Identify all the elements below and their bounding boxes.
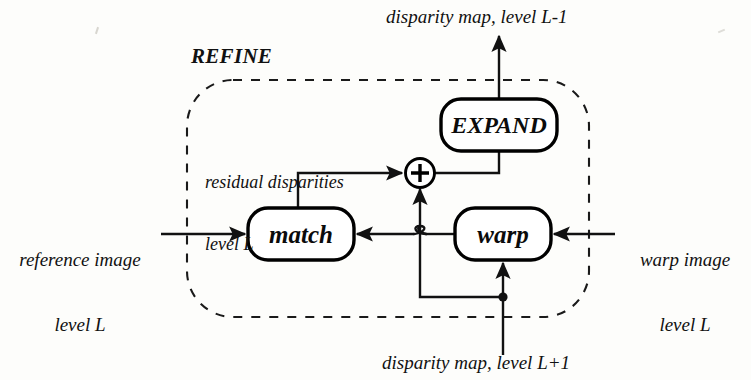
diagram-canvas: EXPAND match warp REFINE disparity map, … — [0, 0, 751, 380]
residual-disparities-annotation: residual disparities level L — [205, 131, 405, 297]
residual-annotation-line2: level L — [205, 234, 405, 255]
right-input-label-line2: level L — [623, 314, 747, 336]
left-input-label: reference image level L — [4, 205, 156, 380]
warp-node-label[interactable]: warp — [455, 222, 551, 247]
right-input-label-line1: warp image — [623, 249, 747, 271]
bottom-input-label: disparity map, level L+1 — [382, 352, 570, 374]
refine-group-label: REFINE — [191, 44, 272, 68]
expand-node-label[interactable]: EXPAND — [441, 113, 557, 137]
wire-sum-to-expand — [435, 151, 499, 173]
left-input-label-line1: reference image — [4, 249, 156, 271]
right-input-label: warp image level L — [623, 205, 747, 380]
residual-annotation-line1: residual disparities — [205, 172, 405, 193]
left-input-label-line2: level L — [4, 314, 156, 336]
junction-dot — [498, 292, 507, 301]
top-output-label: disparity map, level L-1 — [386, 6, 568, 28]
